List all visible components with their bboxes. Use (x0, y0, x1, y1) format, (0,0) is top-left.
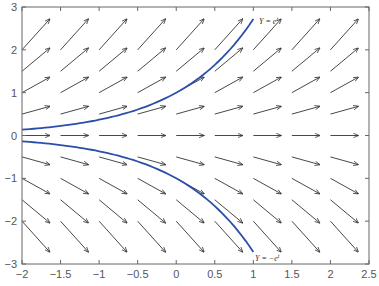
slope-arrow (215, 19, 243, 50)
slope-arrow (292, 157, 320, 165)
slope-arrow (215, 157, 243, 165)
slope-arrow (292, 200, 320, 223)
slope-arrow (99, 221, 127, 252)
slope-arrow (330, 200, 358, 223)
slope-arrow (330, 221, 358, 252)
slope-arrow (138, 48, 166, 71)
slope-arrow (176, 19, 204, 50)
slope-arrow (330, 178, 358, 193)
x-tick-label: −1.5 (50, 268, 72, 280)
slope-arrow (253, 200, 281, 223)
y-tick-label: −2 (4, 215, 17, 227)
slope-arrow (61, 178, 89, 193)
slope-arrow (253, 178, 281, 193)
label-y-equals-neg-e-t: Y = −et (255, 253, 280, 263)
curve-annotations: Y = etY = −et (255, 16, 280, 263)
y-tick-label: 0 (11, 130, 17, 142)
slope-arrow (22, 48, 50, 71)
slope-arrow (215, 106, 243, 114)
slope-arrow (253, 221, 281, 252)
slope-arrow (61, 19, 89, 50)
slope-arrow (22, 221, 50, 252)
slope-arrow (215, 178, 243, 193)
slope-arrow (176, 48, 204, 71)
slope-arrow (253, 48, 281, 71)
slope-arrow (176, 200, 204, 223)
slope-arrow (292, 77, 320, 92)
y-axis-tick-labels: −3−2−10123 (4, 1, 17, 270)
slope-arrow (61, 221, 89, 252)
slope-arrow (61, 106, 89, 114)
slope-arrow (292, 48, 320, 71)
x-tick-label: 0 (173, 268, 179, 280)
slope-arrow (330, 19, 358, 50)
x-tick-label: 0.5 (207, 268, 222, 280)
slope-arrow (22, 106, 50, 114)
slope-arrow (253, 77, 281, 92)
slope-arrow (330, 106, 358, 114)
x-tick-label: 2.5 (361, 268, 376, 280)
slope-field-chart: −2−1.5−1−0.500.511.522.5 −3−2−10123 Y = … (0, 0, 379, 286)
x-tick-label: 1.5 (284, 268, 299, 280)
slope-arrow (61, 200, 89, 223)
y-tick-label: −3 (4, 258, 17, 270)
slope-arrow (292, 178, 320, 193)
slope-arrow (176, 157, 204, 165)
slope-arrow (99, 48, 127, 71)
x-tick-label: −0.5 (127, 268, 149, 280)
x-axis-tick-labels: −2−1.5−1−0.500.511.522.5 (16, 268, 377, 280)
slope-arrow (253, 157, 281, 165)
slope-arrow (99, 200, 127, 223)
slope-arrow (99, 106, 127, 114)
slope-arrow (22, 200, 50, 223)
slope-arrow (253, 106, 281, 114)
slope-arrow (99, 157, 127, 165)
slope-arrow (22, 77, 50, 92)
y-tick-label: 2 (11, 44, 17, 56)
slope-arrow (99, 77, 127, 92)
slope-arrow (292, 19, 320, 50)
y-tick-label: 3 (11, 1, 17, 13)
label-y-equals-e-t: Y = et (259, 16, 278, 26)
slope-arrow (215, 221, 243, 252)
slope-arrow (61, 48, 89, 71)
slope-arrow (292, 106, 320, 114)
y-tick-label: 1 (11, 87, 17, 99)
slope-arrow (176, 106, 204, 114)
x-tick-label: −2 (16, 268, 29, 280)
x-tick-label: 2 (327, 268, 333, 280)
slope-arrow (138, 178, 166, 193)
slope-arrow (330, 157, 358, 165)
slope-arrow (138, 19, 166, 50)
slope-arrow (22, 19, 50, 50)
slope-arrow (61, 77, 89, 92)
x-tick-label: 1 (250, 268, 256, 280)
x-tick-label: −1 (93, 268, 106, 280)
slope-arrow (138, 77, 166, 92)
slope-arrow (138, 221, 166, 252)
slope-arrow (22, 178, 50, 193)
slope-arrow (138, 200, 166, 223)
slope-arrow (176, 221, 204, 252)
slope-arrow (61, 157, 89, 165)
slope-arrow (22, 157, 50, 165)
slope-arrow (292, 221, 320, 252)
slope-field-arrows (22, 19, 358, 252)
y-tick-label: −1 (4, 172, 17, 184)
slope-arrow (330, 48, 358, 71)
slope-arrow (99, 19, 127, 50)
slope-arrow (215, 77, 243, 92)
slope-arrow (99, 178, 127, 193)
slope-arrow (330, 77, 358, 92)
